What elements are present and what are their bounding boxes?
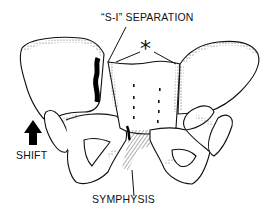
arrow-up-icon <box>24 120 42 145</box>
pelvis-diagram: “S-I” SEPARATION * SHIFT SYMPHYSIS <box>0 0 265 214</box>
pelvis-drawing <box>0 0 265 214</box>
asterisk-leader-left <box>116 52 140 62</box>
right-ilium <box>178 41 259 114</box>
asterisk-marker: * <box>140 38 151 60</box>
symphysis-label: SYMPHYSIS <box>92 193 155 205</box>
si-leader-line <box>108 27 126 62</box>
left-ilium <box>20 37 104 124</box>
shift-label: SHIFT <box>16 149 47 161</box>
si-separation-label: “S-I” SEPARATION <box>101 11 194 23</box>
left-ischium-pubis <box>45 111 127 184</box>
sacrum <box>108 61 180 134</box>
